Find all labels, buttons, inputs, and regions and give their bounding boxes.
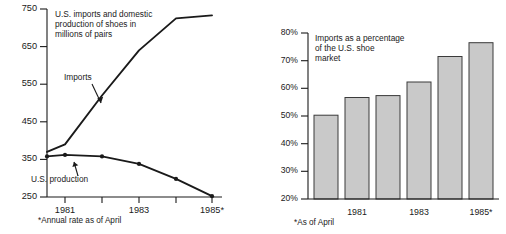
left-chart-footnote: *Annual rate as of April [38,216,121,225]
y-axis-label-350: 350 [8,153,37,163]
x-axis-label-1985: 1985* [190,205,234,215]
figure-root: U.S. SHOE IMPORTS SOAR [0,0,506,234]
y-axis-label-30: 30% [266,165,298,175]
y-axis-label-50: 50% [266,110,298,120]
x-axis-label-1981: 1981 [43,205,87,215]
bars-group [314,43,493,199]
y-axis-label-80: 80% [266,27,298,37]
x-axis-label-1983: 1983 [117,205,161,215]
chart-right-bar: 80% 70% 60% 50% 40% 30% 20% 1981 1983 19… [258,0,506,234]
y-axis-label-20: 20% [266,193,298,203]
y-axis-label-650: 650 [8,41,37,51]
left-chart-caption: U.S. imports and domestic production of … [55,9,205,40]
y-axis-label-70: 70% [266,55,298,65]
bar-1981 [345,98,369,200]
bar-1984 [438,57,462,200]
bar-1983 [407,82,431,199]
x-axis-label-1985: 1985* [459,207,503,217]
right-chart-caption: Imports as a percentage of the U.S. shoe… [315,33,455,64]
y-axis-label-40: 40% [266,138,298,148]
chart-left-line: 750 650 550 450 350 250 1981 1983 1985* … [0,0,258,234]
y-axis-label-250: 250 [8,191,37,201]
bar-1982 [376,96,400,199]
bar-1985 [469,43,493,199]
y-axis-label-550: 550 [8,78,37,88]
y-axis-label-450: 450 [8,116,37,126]
series-label-production: U.S. production [31,174,88,184]
y-axis-label-750: 750 [8,3,37,13]
series-label-imports: Imports [64,72,92,82]
x-axis-label-1981: 1981 [335,207,379,217]
right-chart-footnote: *As of April [294,218,334,227]
x-axis-label-1983: 1983 [397,207,441,217]
bar-1980 [314,115,338,199]
y-axis-label-60: 60% [266,82,298,92]
